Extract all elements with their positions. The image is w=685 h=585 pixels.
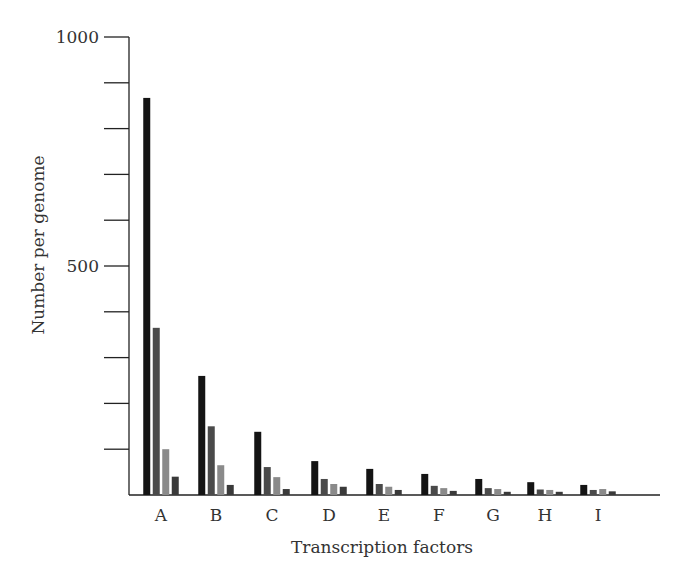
bar-I-series-2 xyxy=(590,490,597,495)
bar-I-series-3 xyxy=(599,489,606,495)
y-tick-label: 500 xyxy=(67,256,99,276)
x-tick-label: E xyxy=(378,505,390,525)
x-tick-label: F xyxy=(433,505,445,525)
bar-F-series-2 xyxy=(431,486,438,495)
y-axis: 5001000 xyxy=(56,27,129,495)
x-tick-label: C xyxy=(265,505,278,525)
bar-G-series-3 xyxy=(494,489,501,495)
bar-C-series-2 xyxy=(264,467,271,495)
y-tick-label: 1000 xyxy=(56,27,99,47)
bar-H-series-2 xyxy=(537,490,544,495)
bar-chart: 5001000 ABCDEFGHI Transcription factorsN… xyxy=(0,0,685,585)
bar-F-series-3 xyxy=(440,488,447,495)
bar-E-series-4 xyxy=(395,490,402,495)
bar-G-series-1 xyxy=(475,479,482,495)
y-axis-title: Number per genome xyxy=(28,155,48,334)
x-tick-label: B xyxy=(210,505,223,525)
bar-D-series-4 xyxy=(340,487,347,495)
bar-B-series-1 xyxy=(198,376,205,495)
bar-F-series-1 xyxy=(421,474,428,495)
bar-B-series-2 xyxy=(208,426,215,495)
bar-B-series-3 xyxy=(217,465,224,495)
bar-A-series-1 xyxy=(143,98,150,495)
bar-A-series-4 xyxy=(172,477,179,495)
bar-I-series-4 xyxy=(609,491,616,495)
bar-D-series-2 xyxy=(321,479,328,495)
bar-G-series-2 xyxy=(485,488,492,495)
x-tick-label: G xyxy=(486,505,500,525)
x-axis-title: Transcription factors xyxy=(291,537,473,557)
x-tick-label: A xyxy=(154,505,168,525)
bar-D-series-1 xyxy=(311,461,318,495)
x-axis: ABCDEFGHI xyxy=(129,495,660,525)
bar-C-series-4 xyxy=(283,489,290,495)
bar-H-series-3 xyxy=(546,490,553,495)
bar-D-series-3 xyxy=(330,484,337,495)
bar-F-series-4 xyxy=(450,491,457,495)
bar-E-series-1 xyxy=(366,469,373,495)
bar-H-series-1 xyxy=(527,482,534,495)
bar-E-series-2 xyxy=(376,484,383,495)
bar-C-series-3 xyxy=(273,477,280,495)
bar-C-series-1 xyxy=(254,432,261,495)
bars xyxy=(143,98,616,495)
bar-I-series-1 xyxy=(580,485,587,495)
bar-B-series-4 xyxy=(227,485,234,495)
bar-E-series-3 xyxy=(385,487,392,495)
bar-H-series-4 xyxy=(556,492,563,495)
x-tick-label: D xyxy=(322,505,336,525)
x-tick-label: H xyxy=(538,505,553,525)
bar-G-series-4 xyxy=(504,492,511,495)
axis-labels: Transcription factorsNumber per genome xyxy=(28,155,473,557)
bar-A-series-2 xyxy=(153,328,160,495)
bar-A-series-3 xyxy=(162,449,169,495)
x-tick-label: I xyxy=(595,505,602,525)
